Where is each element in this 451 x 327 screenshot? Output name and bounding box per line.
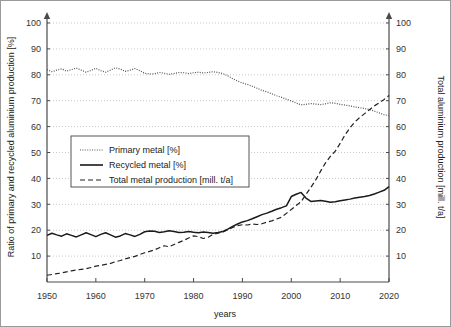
y-axis-left-tick: 30 — [31, 200, 41, 210]
y-axis-right-tick: 80 — [396, 70, 406, 80]
y-axis-left-tick: 80 — [31, 70, 41, 80]
x-axis-tick: 1970 — [135, 291, 155, 301]
y-axis-left-tick: 20 — [31, 225, 41, 235]
y-axis-right-tick-labels: 102030405060708090100 — [396, 18, 411, 261]
chart-container: 102030405060708090100 102030405060708090… — [0, 0, 451, 327]
legend-label-1: Recycled metal [%] — [109, 160, 186, 170]
chart-legend: Primary metal [%]Recycled metal [%]Total… — [71, 136, 249, 187]
y-axis-left-tick: 90 — [31, 44, 41, 54]
x-axis-tick: 1990 — [232, 291, 252, 301]
aluminium-production-chart: 102030405060708090100 102030405060708090… — [1, 1, 450, 326]
y-axis-left-tick: 60 — [31, 122, 41, 132]
x-axis-tick: 2010 — [330, 291, 350, 301]
y-axis-left-label: Ratio of primary and recycled aluminium … — [6, 37, 16, 258]
x-axis-tick-labels: 19501960197019801990200020102020 — [37, 291, 399, 301]
y-axis-right-label: Total aluminium production [mill. t/a] — [436, 75, 446, 218]
x-axis-label: years — [214, 309, 237, 319]
y-axis-right-tick: 40 — [396, 174, 406, 184]
y-axis-right-tick: 70 — [396, 96, 406, 106]
y-axis-left-tick-labels: 102030405060708090100 — [26, 18, 41, 261]
x-axis-tick: 1960 — [86, 291, 106, 301]
y-axis-left-tick: 70 — [31, 96, 41, 106]
y-axis-right-tick: 10 — [396, 251, 406, 261]
y-axis-right-tick: 90 — [396, 44, 406, 54]
legend-label-0: Primary metal [%] — [109, 145, 180, 155]
y-axis-left-tick: 100 — [26, 18, 41, 28]
x-axis-tick: 1980 — [184, 291, 204, 301]
y-axis-right-tick: 20 — [396, 225, 406, 235]
x-axis-tick: 2020 — [379, 291, 399, 301]
y-axis-right-tick: 100 — [396, 18, 411, 28]
y-axis-left-tick: 50 — [31, 148, 41, 158]
y-axis-left-tick: 10 — [31, 251, 41, 261]
x-axis-tick: 2000 — [281, 291, 301, 301]
x-axis-tick: 1950 — [37, 291, 57, 301]
series-line-1 — [47, 187, 389, 238]
y-axis-left-tick: 40 — [31, 174, 41, 184]
y-axis-right-tick: 60 — [396, 122, 406, 132]
y-axis-right-tick: 30 — [396, 200, 406, 210]
legend-label-2: Total metal production [mill. t/a] — [109, 175, 233, 185]
y-axis-right-tick: 50 — [396, 148, 406, 158]
